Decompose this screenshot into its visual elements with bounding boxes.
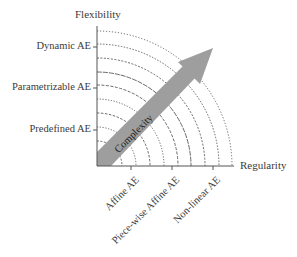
y-tick-label-dynamic: Dynamic AE <box>0 40 91 51</box>
y-tick-label-parametrizable: Parametrizable AE <box>0 81 91 92</box>
y-tick-label-predefined: Predefined AE <box>0 123 91 134</box>
x-axis-title: Regularity <box>240 159 286 171</box>
y-axis-title: Flexibility <box>75 8 121 20</box>
